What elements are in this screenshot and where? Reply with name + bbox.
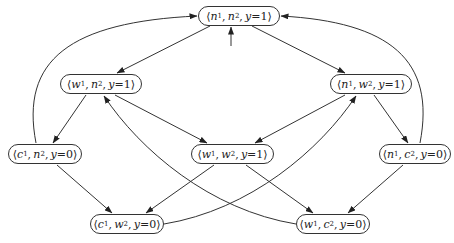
state-node-n1n2: ⟨n1, n2, y=1⟩ [198, 6, 280, 26]
angle-close: ⟩ [263, 148, 267, 161]
process2-state: w [359, 78, 368, 91]
process1-state: w [71, 78, 80, 91]
process1-state: n [211, 10, 218, 23]
edges-layer [0, 0, 454, 243]
var-y-value: =1 [247, 148, 263, 161]
process1-state: n [387, 148, 394, 161]
angle-close: ⟩ [401, 78, 405, 91]
var-y-value: =1 [114, 78, 130, 91]
process1-state: w [304, 218, 313, 231]
var-y-value: =0 [427, 148, 443, 161]
edge-n1n2-n1w2 [252, 26, 345, 73]
state-node-c1n2: ⟨c1, n2, y=0⟩ [8, 144, 82, 164]
state-node-w1n2: ⟨w1, n2, y=1⟩ [60, 74, 142, 94]
edge-w1n2-c1n2 [53, 95, 86, 143]
edge-n1w2-n1c2 [374, 95, 408, 143]
edge-c1n2-c1w2 [57, 165, 112, 213]
edge-w1w2-c1w2 [146, 165, 214, 213]
process2-state: n [33, 148, 40, 161]
angle-close: ⟩ [267, 10, 271, 23]
process1-state: n [341, 78, 348, 91]
process1-state: w [202, 148, 211, 161]
state-node-c1w2: ⟨c1, w2, y=0⟩ [90, 214, 164, 234]
edge-w1w2-w1c2 [246, 165, 313, 213]
edge-w1n2-w1w2 [115, 95, 207, 143]
state-node-n1c2: ⟨n1, c2, y=0⟩ [379, 144, 451, 164]
process2-state: n [91, 78, 98, 91]
edge-n1n2-w1n2 [117, 26, 210, 73]
edge-n1c2-w1c2 [348, 165, 403, 213]
var-y-value: =0 [57, 148, 73, 161]
process2-state: n [228, 10, 235, 23]
state-node-w1c2: ⟨w1, c2, y=0⟩ [296, 214, 370, 234]
var-y-value: =1 [384, 78, 400, 91]
var-y-value: =0 [140, 218, 156, 231]
var-y-value: =0 [346, 218, 362, 231]
angle-close: ⟩ [443, 148, 447, 161]
angle-close: ⟩ [156, 218, 160, 231]
edge-n1w2-w1w2 [255, 95, 345, 143]
process2-state: w [221, 148, 230, 161]
var-y-value: =1 [251, 10, 267, 23]
angle-close: ⟩ [131, 78, 135, 91]
angle-close: ⟩ [73, 148, 77, 161]
state-node-w1w2: ⟨w1, w2, y=1⟩ [191, 144, 274, 164]
state-node-n1w2: ⟨n1, w2, y=1⟩ [330, 74, 412, 94]
process2-state: w [114, 218, 123, 231]
angle-close: ⟩ [362, 218, 366, 231]
